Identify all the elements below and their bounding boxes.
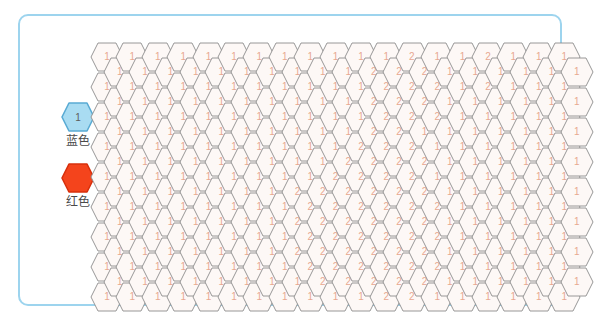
hex-cell-value: 1 <box>560 267 594 297</box>
hex-cell-value: 1 <box>560 117 594 147</box>
hex-cell[interactable]: 1 <box>560 117 594 147</box>
hex-cell-value: 1 <box>560 57 594 87</box>
hex-cell[interactable]: 1 <box>560 177 594 207</box>
hex-grid[interactable]: 1111111111111111111111111111111111111111… <box>90 42 562 304</box>
hex-cell-value: 1 <box>560 237 594 267</box>
hex-cell[interactable]: 1 <box>560 267 594 297</box>
hex-cell[interactable]: 1 <box>560 57 594 87</box>
hex-cell-value: 1 <box>560 87 594 117</box>
hex-cell[interactable]: 1 <box>560 237 594 267</box>
hex-cell-value: 1 <box>560 147 594 177</box>
hex-cell[interactable]: 1 <box>560 207 594 237</box>
hex-cell-value: 1 <box>560 207 594 237</box>
hex-cell-value: 1 <box>560 177 594 207</box>
main-panel: 1蓝色红色 1111111111111111111111111111111111… <box>18 14 562 306</box>
hex-cell[interactable]: 1 <box>560 147 594 177</box>
hex-cell[interactable]: 1 <box>560 87 594 117</box>
